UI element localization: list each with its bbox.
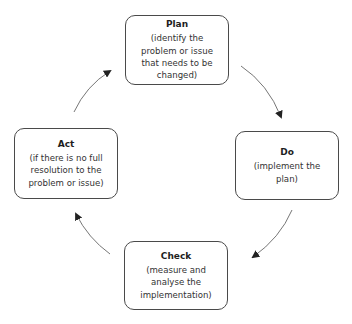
arrow-plan-to-do <box>241 66 281 117</box>
arrow-act-to-plan <box>74 71 110 112</box>
step-check-title: Check <box>161 250 191 263</box>
arrow-do-to-check <box>253 210 292 257</box>
step-check-box: Check (measure and analyse the implement… <box>124 241 228 310</box>
step-plan-description: (identify the problem or issue that need… <box>133 32 221 82</box>
step-plan-title: Plan <box>166 18 188 31</box>
step-act-box: Act (if there is no full resolution to t… <box>14 128 118 199</box>
step-check-description: (measure and analyse the implementation) <box>135 264 217 301</box>
step-plan-box: Plan (identify the problem or issue that… <box>125 15 229 85</box>
step-act-title: Act <box>58 138 75 151</box>
arrow-check-to-act <box>76 214 110 254</box>
step-do-box: Do (implement the plan) <box>235 131 339 200</box>
step-do-title: Do <box>280 146 294 159</box>
step-act-description: (if there is no full resolution to the p… <box>19 152 113 189</box>
step-do-description: (implement the plan) <box>250 160 324 185</box>
